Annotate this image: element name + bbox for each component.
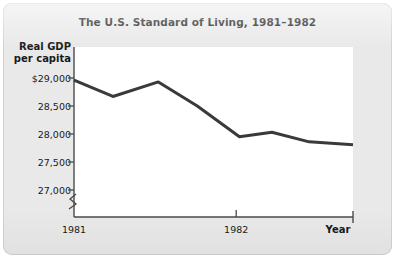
chart-card: The U.S. Standard of Living, 1981–1982 R… [3,3,392,255]
axis-lines [74,47,353,223]
y-axis-break-icon [69,194,76,209]
data-line-real-gdp-per-capita [74,80,353,144]
x-tick-label: 1981 [62,224,86,235]
x-tick-label: 1982 [224,224,248,235]
axis-ticks [68,78,236,217]
x-axis-title: Year [326,224,351,235]
chart-svg [3,3,392,255]
plot-wrap: Real GDP per capita $29,00028,50028,0002… [3,3,392,255]
